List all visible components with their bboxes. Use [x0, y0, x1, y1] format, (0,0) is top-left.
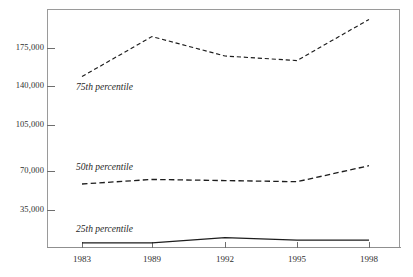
x-axis-label: 1989: [129, 254, 175, 265]
x-axis-label: 1998: [346, 254, 392, 265]
plot-area-frame: [47, 9, 400, 248]
x-axis-tick: [369, 242, 370, 248]
y-axis-label-wrap: 70,000: [0, 166, 44, 175]
x-axis-tick: [82, 242, 83, 248]
y-axis-label-wrap: 140,000: [0, 81, 44, 90]
y-axis-tick: [47, 86, 55, 87]
y-axis-label: 175,000: [0, 43, 44, 52]
x-axis-label: 1992: [202, 254, 248, 265]
y-axis-label-wrap: 35,000: [0, 205, 44, 214]
x-axis-tick: [152, 242, 153, 248]
y-axis-tick: [47, 125, 55, 126]
y-axis-label: 35,000: [0, 205, 44, 214]
y-axis-tick: [47, 48, 55, 49]
y-axis-label-wrap: 105,000: [0, 120, 44, 129]
x-axis-tick: [297, 242, 298, 248]
y-axis-tick: [47, 171, 55, 172]
y-axis-label: 140,000: [0, 81, 44, 90]
x-axis-tick: [225, 242, 226, 248]
x-axis-label: 1995: [274, 254, 320, 265]
series-annotation-25th-percentile: 25th percentile: [76, 224, 133, 235]
x-axis-line: [47, 247, 401, 248]
chart-container: 175,000 140,000 105,000 70,000 35,000 19…: [0, 0, 413, 277]
y-axis-tick: [47, 210, 55, 211]
series-annotation-75th-percentile: 75th percentile: [76, 82, 133, 93]
y-axis-label: 70,000: [0, 166, 44, 175]
x-axis-label: 1983: [59, 254, 105, 265]
series-annotation-50th-percentile: 50th percentile: [76, 162, 133, 173]
y-axis-label: 105,000: [0, 120, 44, 129]
y-axis-label-wrap: 175,000: [0, 43, 44, 52]
